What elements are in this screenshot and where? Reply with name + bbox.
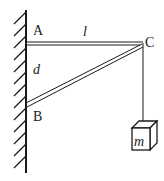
label-a: A — [33, 23, 44, 38]
strut-bc — [26, 44, 143, 107]
rod-ac — [26, 42, 143, 45]
label-c: C — [145, 35, 154, 50]
label-m: m — [134, 134, 144, 149]
label-l: l — [83, 24, 87, 39]
statics-diagram: A l C d B m — [0, 0, 164, 181]
wall — [14, 10, 26, 173]
label-b: B — [33, 109, 42, 124]
label-d: d — [33, 62, 41, 77]
